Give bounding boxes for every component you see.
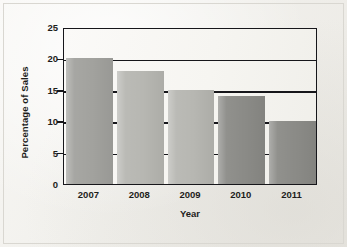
x-tick-label-2010: 2010 xyxy=(215,189,266,200)
y-tick-mark-5 xyxy=(57,153,63,155)
bar-2010 xyxy=(218,96,265,184)
y-tick-label-0: 0 xyxy=(28,180,58,190)
y-tick-mark-20 xyxy=(57,59,63,61)
x-tick-label-2007: 2007 xyxy=(63,189,114,200)
y-tick-label-25: 25 xyxy=(28,23,58,33)
bar-2011 xyxy=(269,121,316,184)
bar-sheen xyxy=(168,90,215,184)
y-tick-mark-15 xyxy=(57,90,63,92)
bar-sheen xyxy=(269,121,316,184)
y-tick-label-10: 10 xyxy=(28,117,58,127)
bar-sheen xyxy=(66,58,113,184)
x-tick-label-2011: 2011 xyxy=(266,189,317,200)
x-tick-label-2009: 2009 xyxy=(165,189,216,200)
bar-2008 xyxy=(117,71,164,184)
bar-2007 xyxy=(66,58,113,184)
y-tick-label-15: 15 xyxy=(28,86,58,96)
x-axis-title: Year xyxy=(63,208,317,219)
y-tick-mark-10 xyxy=(57,121,63,123)
bar-2009 xyxy=(168,90,215,184)
plot-area xyxy=(63,28,317,185)
y-tick-label-5: 5 xyxy=(28,149,58,159)
x-tick-label-2008: 2008 xyxy=(114,189,165,200)
bar-sheen xyxy=(117,71,164,184)
bar-sheen xyxy=(218,96,265,184)
y-tick-label-20: 20 xyxy=(28,54,58,64)
bar-chart-figure: Percentage of Sales 0510152025 200720082… xyxy=(0,0,347,247)
